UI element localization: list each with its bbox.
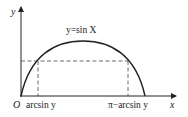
right-tick-label: π−arcsin y <box>108 100 148 110</box>
y-axis-label: y <box>10 6 16 17</box>
origin-label: O <box>13 99 20 110</box>
left-tick-label: arcsin y <box>26 100 56 110</box>
sine-curve <box>21 41 145 96</box>
sine-diagram: y x O y=sin X arcsin y π−arcsin y <box>0 0 188 117</box>
x-axis-label: x <box>169 99 175 110</box>
curve-label: y=sin X <box>66 25 97 35</box>
